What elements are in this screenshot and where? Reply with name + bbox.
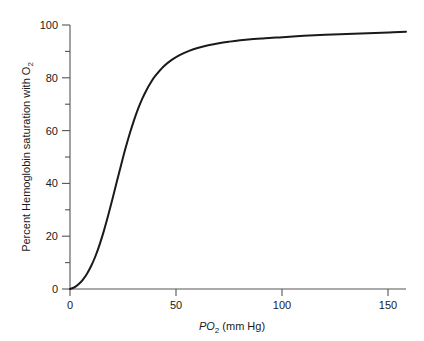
y-tick-label-20: 20	[46, 230, 58, 242]
y-axis-minor-ticks	[65, 51, 70, 262]
x-axis-title: PO2 (mm Hg)	[199, 320, 265, 335]
x-axis-tick-labels: 0 50 100 150	[67, 299, 397, 311]
axis-lines	[70, 25, 406, 289]
data-series-group	[70, 32, 406, 289]
oxygen-dissociation-chart: 100 80 60 40 20 0 0 50 100 150 PO2 (mm H…	[0, 0, 424, 341]
x-tick-label-150: 150	[379, 299, 397, 311]
x-axis-title-rest: (mm Hg)	[219, 320, 265, 332]
chart-figure: 100 80 60 40 20 0 0 50 100 150 PO2 (mm H…	[0, 0, 424, 341]
x-tick-label-100: 100	[273, 299, 291, 311]
x-tick-label-50: 50	[170, 299, 182, 311]
x-axis-major-ticks	[70, 289, 388, 296]
y-tick-label-100: 100	[40, 19, 58, 31]
dissociation-curve	[70, 32, 406, 289]
y-tick-label-40: 40	[46, 177, 58, 189]
y-axis-title-main: Percent Hemoglobin saturation with O	[20, 66, 32, 252]
y-tick-label-0: 0	[52, 283, 58, 295]
y-axis-tick-labels: 100 80 60 40 20 0	[40, 19, 58, 295]
x-axis-title-italic: PO	[199, 320, 215, 332]
y-axis-title: Percent Hemoglobin saturation with O2	[20, 62, 35, 252]
y-tick-label-80: 80	[46, 72, 58, 84]
x-tick-label-0: 0	[67, 299, 73, 311]
y-axis-title-subscript: 2	[26, 62, 35, 67]
y-tick-label-60: 60	[46, 125, 58, 137]
